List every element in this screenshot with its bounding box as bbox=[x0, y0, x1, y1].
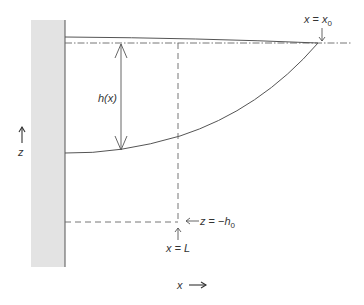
z-axis-label: z bbox=[17, 146, 24, 158]
z-eq-minus-h0-label: z = −h0 bbox=[199, 215, 236, 230]
x-axis-label: x bbox=[176, 279, 183, 291]
diagram-canvas: h(x) x = x0 z = −h0 x = L z x bbox=[0, 0, 364, 305]
x0-down-arrow-icon bbox=[319, 28, 325, 41]
x-axis-right-arrow-icon bbox=[189, 282, 206, 288]
z-h0-left-arrow-icon bbox=[186, 218, 199, 224]
upper-surface-curve bbox=[65, 37, 318, 43]
x-L-up-arrow-icon bbox=[175, 228, 181, 240]
x-eq-L-label: x = L bbox=[165, 242, 190, 254]
h-x-label: h(x) bbox=[98, 92, 117, 104]
x-eq-x0-label: x = x0 bbox=[303, 13, 333, 28]
z-axis-up-arrow-icon bbox=[19, 127, 25, 143]
wall bbox=[31, 20, 65, 267]
